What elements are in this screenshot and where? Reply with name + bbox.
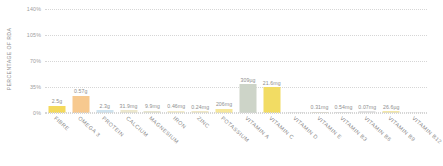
x-axis-label-slot: PROTEIN: [93, 113, 117, 166]
x-axis-label-slot: ZINC: [188, 113, 212, 166]
x-axis-label-slot: VITAMIN C: [260, 113, 284, 166]
x-axis-label-slot: VITAMIN B3: [332, 113, 356, 166]
bar-value-label: 0.24mg: [191, 104, 209, 110]
bar-value-label: 21.6mg: [263, 80, 281, 86]
bar-value-label: 26.6µg: [383, 104, 400, 110]
x-axis-label-slot: VITAMIN E: [308, 113, 332, 166]
x-axis-label-slot: VITAMIN A: [236, 113, 260, 166]
bar-value-label: 0.46mg: [167, 103, 185, 109]
y-axis-tick-label: 35%: [30, 84, 41, 90]
bar-value-label: 0.07mg: [358, 104, 376, 110]
bar-slot: 26.6µg: [379, 9, 403, 113]
bar[interactable]: [239, 84, 256, 113]
y-axis-tick-label: 70%: [30, 58, 41, 64]
x-axis-category-label: VITAMIN B12: [411, 115, 443, 145]
bar[interactable]: [72, 96, 89, 113]
bar-slot: 31.9mg: [117, 9, 141, 113]
bar-slot: 0.24mg: [188, 9, 212, 113]
bar-value-label: 0.31mg: [311, 104, 329, 110]
x-axis-label-slot: CALCIUM: [117, 113, 141, 166]
y-axis-tick-label: 0%: [33, 110, 41, 116]
x-axis-label-slot: VITAMIN B9: [379, 113, 403, 166]
bar[interactable]: [263, 87, 280, 113]
bar-slot: 0.57g: [69, 9, 93, 113]
bar-slot: [284, 9, 308, 113]
x-axis-label-slot: IRON: [164, 113, 188, 166]
bar-slot: 0.07mg: [355, 9, 379, 113]
x-axis-label-slot: VITAMIN D: [284, 113, 308, 166]
bar-slot: 309µg: [236, 9, 260, 113]
bar-slot: 0.54mg: [332, 9, 356, 113]
bar-slot: 2.3g: [93, 9, 117, 113]
bar-value-label: 2.5g: [52, 98, 63, 104]
x-axis-category-label: ZINC: [196, 115, 211, 129]
bar-slot: 0.31mg: [308, 9, 332, 113]
y-axis-tick-label: 140%: [27, 6, 41, 12]
x-axis-category-labels: FIBREOMEGA 3PROTEINCALCIUMMAGNESIUMIRONZ…: [45, 113, 427, 166]
x-axis-label-slot: VITAMIN B6: [355, 113, 379, 166]
bar-value-label: 31.9mg: [120, 103, 138, 109]
x-axis-label-slot: MAGNESIUM: [141, 113, 165, 166]
x-axis-label-slot: POTASSIUM: [212, 113, 236, 166]
bar-slot: 9.9mg: [141, 9, 165, 113]
y-axis-title-label: PERCENTAGE OF RDA: [6, 28, 12, 91]
bar-slot: 0.46mg: [164, 9, 188, 113]
x-axis-label-slot: FIBRE: [45, 113, 69, 166]
bar-value-label: 0.57g: [74, 88, 87, 94]
bar-slot: 206mg: [212, 9, 236, 113]
bar-value-label: 0.54mg: [334, 104, 352, 110]
plot-area: 0%35%70%105%140% 2.5g0.57g2.3g31.9mg9.9m…: [45, 9, 427, 113]
y-axis-title: PERCENTAGE OF RDA: [0, 0, 18, 118]
x-axis-label-slot: VITAMIN B12: [403, 113, 427, 166]
bar-slot: 2.5g: [45, 9, 69, 113]
bar-slot: 21.6mg: [260, 9, 284, 113]
bar-value-label: 9.9mg: [145, 103, 160, 109]
x-axis-category-label: IRON: [172, 115, 188, 130]
x-axis-label-slot: OMEGA 3: [69, 113, 93, 166]
bar-value-label: 2.3g: [99, 103, 110, 109]
y-axis-tick-label: 105%: [27, 32, 41, 38]
bar-value-label: 206mg: [216, 101, 232, 107]
bars-layer: 2.5g0.57g2.3g31.9mg9.9mg0.46mg0.24mg206m…: [45, 9, 427, 113]
bar-value-label: 309µg: [240, 77, 255, 83]
bar-slot: [403, 9, 427, 113]
